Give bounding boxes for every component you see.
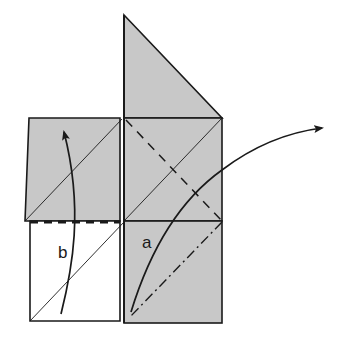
- left-lower-square: [30, 221, 120, 321]
- triangle-flap: [124, 15, 222, 118]
- label-b: b: [58, 243, 67, 262]
- origami-diagram: a b: [0, 0, 344, 345]
- label-a: a: [142, 233, 152, 252]
